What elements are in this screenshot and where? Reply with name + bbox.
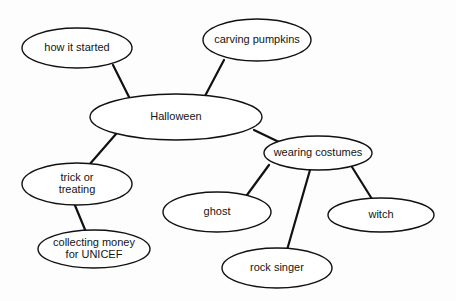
node-carving-pumpkins[interactable]: carving pumpkins (203, 19, 311, 61)
connector-wearing-costumes-to-ghost (247, 165, 269, 195)
node-label-line: how it started (44, 41, 109, 53)
nodes-layer: Halloweenhow it startedcarving pumpkinst… (22, 19, 434, 288)
connector-trick-or-treating-to-collecting-money-for-unicef (74, 203, 86, 232)
node-label-line: trick or (61, 171, 94, 183)
node-label-wearing-costumes: wearing costumes (273, 146, 363, 158)
node-label-line: Halloween (150, 110, 201, 122)
node-label-line: ghost (204, 205, 231, 217)
node-label-line: treating (59, 183, 96, 195)
node-ghost[interactable]: ghost (163, 192, 271, 232)
node-label-rock-singer: rock singer (250, 261, 304, 273)
node-label-line: carving pumpkins (214, 33, 300, 45)
connector-wearing-costumes-to-rock-singer (287, 170, 310, 250)
mind-map-diagram: Halloweenhow it startedcarving pumpkinst… (0, 0, 456, 301)
node-label-line: witch (367, 208, 393, 220)
connector-carving-pumpkins-to-halloween (205, 60, 224, 96)
node-trick-or-treating[interactable]: trick ortreating (22, 163, 132, 205)
node-how-it-started[interactable]: how it started (22, 28, 132, 68)
node-label-line: collecting money (53, 236, 135, 248)
node-label-witch: witch (367, 208, 393, 220)
connector-halloween-to-trick-or-treating (89, 134, 116, 165)
node-collecting-money-for-unicef[interactable]: collecting moneyfor UNICEF (38, 230, 150, 268)
node-label-line: rock singer (250, 261, 304, 273)
node-witch[interactable]: witch (328, 198, 434, 232)
node-label-carving-pumpkins: carving pumpkins (214, 33, 300, 45)
mind-map-canvas: Halloweenhow it startedcarving pumpkinst… (0, 0, 456, 301)
connector-halloween-to-wearing-costumes (254, 130, 279, 142)
node-wearing-costumes[interactable]: wearing costumes (264, 136, 372, 170)
node-label-trick-or-treating: trick ortreating (59, 171, 96, 196)
connector-wearing-costumes-to-witch (352, 167, 372, 199)
node-rock-singer[interactable]: rock singer (222, 248, 332, 288)
node-label-ghost: ghost (204, 205, 231, 217)
node-halloween[interactable]: Halloween (90, 94, 262, 140)
node-label-line: wearing costumes (273, 146, 363, 158)
connector-how-it-started-to-halloween (113, 65, 129, 97)
node-label-how-it-started: how it started (44, 41, 109, 53)
node-label-halloween: Halloween (150, 110, 201, 122)
node-label-line: for UNICEF (66, 248, 123, 260)
